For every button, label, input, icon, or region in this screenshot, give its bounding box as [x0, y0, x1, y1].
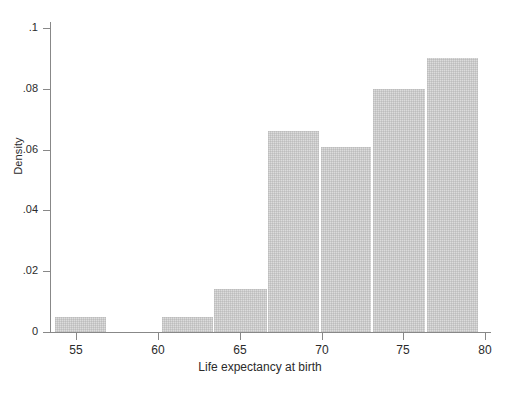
bars-layer: [0, 0, 520, 332]
x-tick-label-60: 60: [138, 343, 178, 357]
x-axis-line: [50, 332, 491, 333]
x-tick-60: [158, 333, 159, 340]
x-tick-label-80: 80: [465, 343, 505, 357]
x-tick-label-55: 55: [56, 343, 96, 357]
histogram-bar: [214, 289, 266, 332]
histogram-bar: [427, 58, 478, 332]
histogram-bar: [321, 147, 372, 332]
x-axis-title: Life expectancy at birth: [0, 360, 520, 374]
histogram-bar: [373, 89, 425, 332]
y-axis-title: Density: [12, 76, 24, 236]
x-tick-70: [322, 333, 323, 340]
histogram-figure: 0 .02 .04 .06 .08 .1 55 60 65 70 75 80 D…: [0, 0, 520, 394]
x-tick-65: [240, 333, 241, 340]
histogram-bar: [162, 317, 213, 332]
histogram-bar: [55, 317, 106, 332]
x-tick-80: [485, 333, 486, 340]
histogram-bar: [268, 131, 319, 332]
x-tick-55: [76, 333, 77, 340]
y-tick-0: [43, 332, 50, 333]
x-tick-75: [403, 333, 404, 340]
x-tick-label-65: 65: [220, 343, 260, 357]
x-tick-label-75: 75: [383, 343, 423, 357]
x-tick-label-70: 70: [302, 343, 342, 357]
